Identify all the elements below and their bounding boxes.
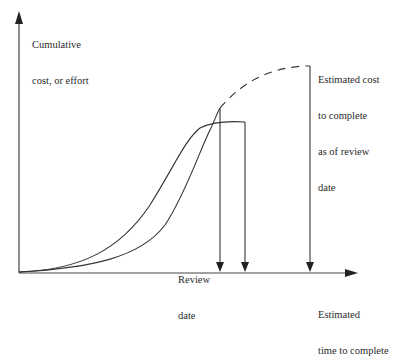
y-axis-label: Cumulative cost, or effort	[32, 15, 89, 99]
estimate-label-line4: date	[318, 182, 380, 194]
review-date-label: Review date	[178, 250, 210, 334]
estimated-arrow-icon	[306, 262, 314, 272]
review-arrow-icon	[216, 262, 224, 272]
estimated-completion-marker	[306, 66, 314, 272]
review-label-line1: Review	[178, 274, 210, 286]
x-axis-arrow-icon	[345, 269, 358, 277]
y-axis	[15, 11, 23, 273]
x-axis-label: Estimated time to complete	[318, 285, 389, 360]
planned-completion-marker	[241, 122, 249, 272]
actual-curve	[19, 108, 220, 272]
y-axis-label-line1: Cumulative	[32, 39, 89, 51]
estimate-label-line3: as of review	[318, 146, 380, 158]
review-label-line2: date	[178, 310, 210, 322]
y-axis-label-line2: cost, or effort	[32, 75, 89, 87]
estimate-label: Estimated cost to complete as of review …	[318, 50, 380, 206]
planned-arrow-icon	[241, 262, 249, 272]
estimate-label-line2: to complete	[318, 110, 380, 122]
estimate-label-line1: Estimated cost	[318, 74, 380, 86]
y-axis-arrow-icon	[15, 11, 23, 24]
review-date-marker	[216, 108, 224, 272]
x-axis-label-line1: Estimated	[318, 309, 389, 321]
planned-curve	[19, 122, 245, 272]
x-axis-label-line2: time to complete	[318, 345, 389, 357]
forecast-curve	[220, 66, 310, 108]
